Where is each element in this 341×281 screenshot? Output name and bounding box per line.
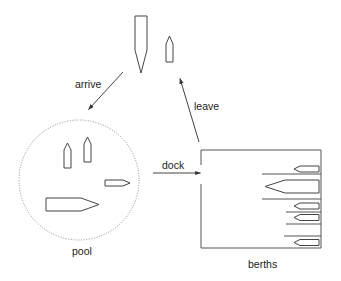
leave-label: leave — [194, 100, 219, 112]
ship-icon-small-incoming — [166, 36, 173, 62]
ship-harbor-diagram: arrive leave pool dock — [0, 0, 341, 281]
arrive-edge: arrive — [75, 72, 123, 110]
arrive-label: arrive — [75, 78, 101, 90]
ship-icon-berth-3 — [294, 203, 319, 209]
ship-icon-pool-1 — [64, 143, 71, 168]
pool-node: pool — [19, 120, 139, 257]
ship-icon-berth-1 — [294, 166, 319, 172]
ship-icon-pool-2 — [84, 137, 91, 162]
ship-icon-berth-4 — [294, 215, 319, 221]
incoming-ships — [135, 16, 173, 73]
dock-label: dock — [162, 159, 185, 171]
ship-icon-pool-3 — [105, 180, 130, 186]
ship-icon-large-incoming — [135, 16, 147, 73]
dock-edge: dock — [153, 159, 201, 173]
ship-icon-pool-4 — [46, 198, 99, 211]
berths-node: berths — [201, 150, 321, 270]
ship-icon-berth-5 — [294, 240, 319, 246]
berths-label: berths — [248, 258, 277, 270]
ship-icon-berth-2 — [265, 180, 319, 193]
pool-label: pool — [72, 245, 92, 257]
leave-edge: leave — [180, 79, 219, 143]
